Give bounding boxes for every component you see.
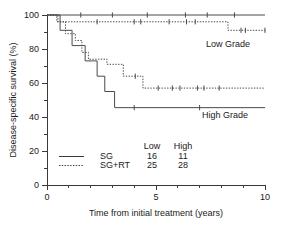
x-axis-ticks (47, 185, 265, 190)
legend-header-low: Low (144, 141, 161, 151)
legend-header-high: High (174, 141, 193, 151)
x-tick-label-0: 0 (44, 192, 49, 202)
legend: Low High SG 16 11 SG+RT 25 28 (59, 141, 192, 170)
curve-path (47, 15, 265, 88)
annotation-high-grade: High Grade (202, 110, 248, 120)
series-sg-rt-high-grade (47, 15, 265, 91)
y-axis-tick-labels: 100 80 60 40 20 0 (24, 10, 39, 190)
y-axis-ticks (42, 15, 47, 185)
x-tick-label-10: 10 (260, 192, 270, 202)
curve-path (47, 15, 265, 108)
curve-path (47, 15, 265, 30)
survival-curves (47, 12, 265, 110)
x-axis-title: Time from initial treatment (years) (89, 208, 223, 218)
y-tick-label-20: 20 (29, 146, 39, 156)
y-axis-title: Disease-specific survival (%) (8, 42, 18, 157)
legend-value-sgrt-low: 25 (147, 160, 157, 170)
series-sg-high-grade (47, 15, 265, 110)
survival-chart-figure: 100 80 60 40 20 0 0 5 10 Tim (0, 0, 289, 225)
legend-label-sgrt: SG+RT (100, 160, 131, 170)
y-tick-label-40: 40 (29, 112, 39, 122)
y-tick-label-0: 0 (34, 180, 39, 190)
plot-area: 100 80 60 40 20 0 0 5 10 Tim (0, 0, 289, 225)
y-tick-label-80: 80 (29, 44, 39, 54)
y-tick-label-60: 60 (29, 78, 39, 88)
annotation-low-grade: Low Grade (206, 39, 250, 49)
x-axis-tick-labels: 0 5 10 (44, 192, 270, 202)
y-tick-label-100: 100 (24, 10, 39, 20)
legend-value-sgrt-high: 28 (178, 160, 188, 170)
series-sg-rt-low-grade (47, 15, 265, 33)
series-sg-low-grade (47, 12, 265, 17)
x-tick-label-5: 5 (153, 192, 158, 202)
